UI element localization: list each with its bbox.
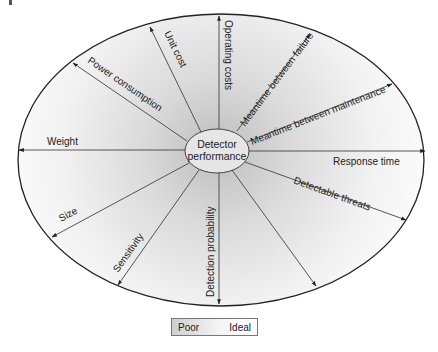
center-label-line2: performance [188,150,247,162]
legend-poor-label: Poor [178,322,199,333]
label-weight: Weight [47,136,78,147]
radial-diagram: Operating costs Unit cost Power consumpt… [0,0,438,352]
legend-ideal-label: Ideal [229,322,251,333]
legend-gradient-bar: Poor Ideal [171,318,258,336]
center-label-line1: Detector [197,138,237,150]
label-response-time: Response time [333,156,400,167]
label-operating-costs: Operating costs [223,20,234,90]
label-detection-probability: Detection probability [205,206,216,297]
